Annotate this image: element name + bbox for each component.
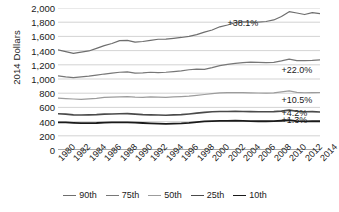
legend-item-75th[interactable]: 75th [106, 190, 140, 200]
legend-item-50th[interactable]: 50th [148, 190, 182, 200]
y-axis-tick-label: 400 [17, 116, 55, 127]
legend-label: 10th [249, 190, 267, 200]
legend-swatch-icon [106, 195, 119, 196]
y-axis-tick-label: 1,600 [17, 31, 55, 42]
y-axis-tick-label: 0 [17, 145, 55, 156]
y-axis-tick-label: 2,000 [17, 3, 55, 14]
y-axis-tick-label: 600 [17, 102, 55, 113]
x-axis-tick-labels: 1980198219841986198819901992199419961998… [58, 151, 320, 191]
growth-annotation-10th: +1.3% [281, 115, 307, 125]
y-axis-tick-label: 800 [17, 88, 55, 99]
legend-label: 90th [79, 190, 97, 200]
series-line-90th [58, 12, 320, 54]
y-axis-tick-labels: 02004006008001,0001,2001,4001,6001,8002,… [17, 8, 55, 150]
y-axis-tick-label: 1,000 [17, 74, 55, 85]
legend-label: 50th [164, 190, 182, 200]
legend-item-10th[interactable]: 10th [233, 190, 267, 200]
y-axis-tick-label: 1,400 [17, 45, 55, 56]
growth-annotation-50th: +10.5% [281, 95, 312, 105]
y-axis-tick-label: 200 [17, 130, 55, 141]
growth-annotation-75th: +22.0% [281, 65, 312, 75]
legend-swatch-icon [148, 195, 161, 196]
legend-item-25th[interactable]: 25th [191, 190, 225, 200]
chart-legend: 90th75th50th25th10th [0, 190, 330, 200]
plot-svg [58, 8, 320, 150]
plot-area: +38.1%+22.0%+10.5%+4.2%+1.3% [58, 8, 320, 150]
legend-swatch-icon [191, 195, 204, 196]
y-axis-tick-label: 1,800 [17, 17, 55, 28]
growth-annotation-90th: +38.1% [228, 18, 259, 28]
y-axis-tick-label: 1,200 [17, 59, 55, 70]
legend-swatch-icon [63, 195, 76, 196]
legend-label: 75th [122, 190, 140, 200]
legend-label: 25th [207, 190, 225, 200]
legend-swatch-icon [233, 195, 246, 196]
legend-item-90th[interactable]: 90th [63, 190, 97, 200]
